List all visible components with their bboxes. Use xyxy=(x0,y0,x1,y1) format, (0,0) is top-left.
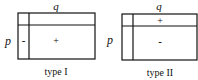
type-ii-minus-sign: - xyxy=(158,35,162,47)
type-ii-p-label: p xyxy=(106,33,113,47)
type-i-plus-sign: + xyxy=(53,35,59,46)
type-i-q-label: q xyxy=(53,0,59,12)
type-ii-plus-sign: + xyxy=(157,15,163,26)
type-ii-q-label: q xyxy=(156,0,162,12)
diagram-canvas: q p - + type I q p + - type II xyxy=(0,0,198,80)
type-i-minus-sign: - xyxy=(22,34,26,46)
type-ii-diagram: q p + - type II xyxy=(106,0,197,78)
type-ii-caption: type II xyxy=(147,67,173,78)
type-i-p-label: p xyxy=(4,34,11,48)
type-i-diagram: q p - + type I xyxy=(4,0,95,77)
type-i-caption: type I xyxy=(44,66,67,77)
